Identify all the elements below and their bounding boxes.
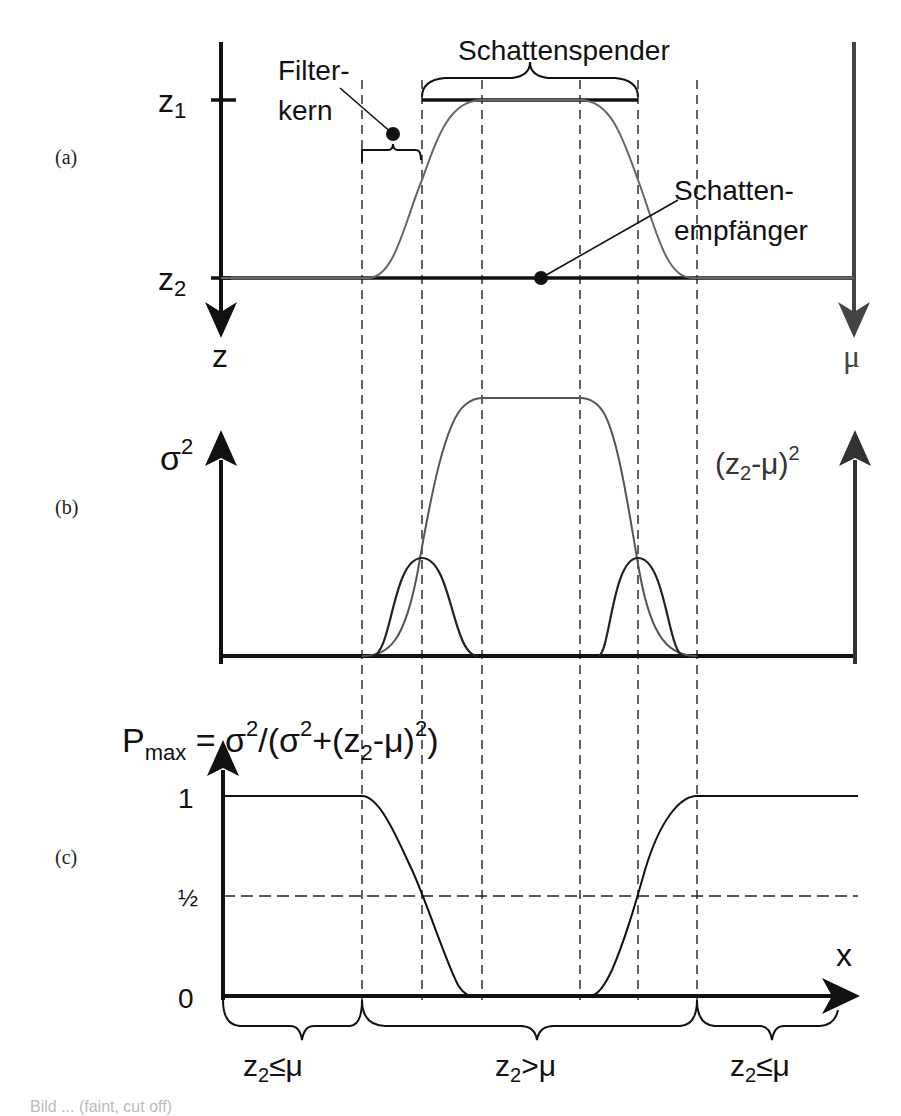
tick-label-1: 1: [178, 783, 194, 814]
sigma-squared-bump-right: [598, 558, 684, 656]
shadow-receiver-pointer: [541, 200, 678, 278]
region-label-right: z2≤μ: [730, 1049, 790, 1086]
mu-squared-curve: [362, 398, 697, 656]
region-brace-middle: [362, 1000, 697, 1040]
filter-kernel-pointer: [340, 88, 393, 134]
figure-caption: Bild ... (faint, cut off): [30, 1098, 870, 1116]
panel-c-label: (c): [55, 846, 77, 869]
panel-c: (c) Pmax = σ2/(σ2+(z2-μ)2) 1 ½ 0 x z2≤μ …: [55, 716, 860, 1086]
filter-kernel-label-1: Filter-: [278, 55, 350, 86]
pmax-formula: Pmax = σ2/(σ2+(z2-μ)2): [122, 716, 439, 765]
shadow-receiver-label-1: Schatten-: [674, 175, 794, 206]
region-brace-left: [223, 1000, 362, 1040]
x-axis-label: x: [836, 937, 852, 973]
tick-label-0: 0: [178, 983, 194, 1014]
mu-squared-axis-label: (z2-μ)2: [715, 442, 800, 484]
tick-label-half: ½: [178, 884, 198, 911]
filter-kernel-label-2: kern: [278, 95, 332, 126]
z-axis-label: z: [212, 338, 228, 374]
sigma-axis-label: σ2: [160, 434, 193, 477]
region-label-left: z2≤μ: [243, 1049, 303, 1086]
region-brace-right: [697, 1000, 838, 1040]
shadow-receiver-label-2: empfänger: [674, 215, 808, 246]
z2-label: z2: [158, 261, 186, 301]
filter-kernel-brace: [362, 144, 421, 162]
panel-b: (b) σ2 (z2-μ)2: [55, 398, 871, 664]
z1-label: z1: [158, 83, 186, 123]
panel-b-label: (b): [55, 496, 78, 519]
mu-axis-label: μ: [843, 338, 860, 374]
panel-a: (a) z1 z2 z μ Schattenspender Filter- ke…: [55, 35, 870, 374]
region-label-middle: z2>μ: [495, 1049, 556, 1086]
panel-a-label: (a): [55, 146, 77, 169]
shadow-caster-label: Schattenspender: [458, 35, 670, 66]
shadow-caster-brace: [422, 62, 638, 97]
sigma-squared-bump-left: [372, 558, 478, 656]
